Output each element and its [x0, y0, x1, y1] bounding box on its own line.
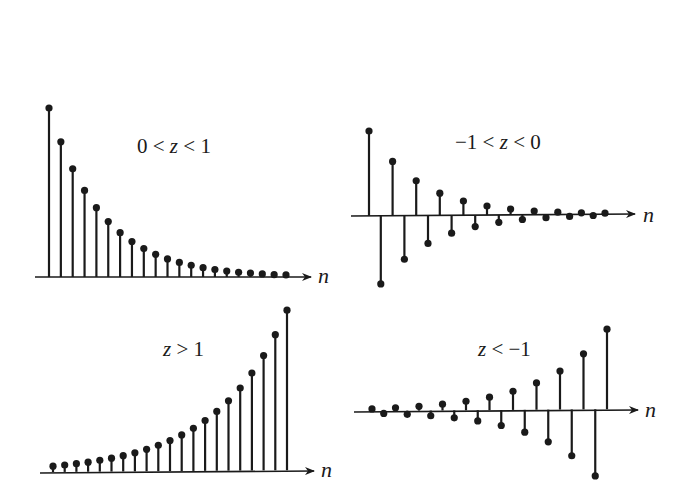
stem-dot-n5 [424, 240, 431, 247]
stem-dot-n16 [235, 269, 242, 276]
panel-title: z > 1 [162, 337, 204, 361]
stem-dot-n4 [96, 457, 103, 464]
stem-dot-n2 [392, 404, 399, 411]
stem-dot-n17 [248, 369, 255, 376]
stem-dot-n16 [554, 209, 561, 216]
stem-dot-n5 [427, 412, 434, 419]
stem-dot-n1 [57, 138, 64, 145]
stem-dot-n16 [237, 384, 244, 391]
stem-dot-n0 [45, 104, 52, 111]
stem-dot-n15 [223, 267, 230, 274]
stem-dot-n7 [448, 230, 455, 237]
stem-dot-n8 [460, 197, 467, 204]
stem-dot-n18 [578, 209, 585, 216]
panel-title: z < −1 [477, 337, 531, 361]
stem-dot-n13 [199, 264, 206, 271]
stem-dot-n17 [247, 270, 254, 277]
stem-dot-n16 [556, 367, 563, 374]
stem-dot-n19 [592, 472, 599, 479]
stem-dot-n20 [282, 271, 289, 278]
stem-dot-n14 [531, 207, 538, 214]
stem-dot-n19 [271, 271, 278, 278]
stem-dot-n8 [140, 245, 147, 252]
stem-dot-n8 [143, 446, 150, 453]
stem-dot-n19 [590, 212, 597, 219]
panel-bottom-left: n z > 1 [40, 307, 332, 482]
stem-dot-n19 [272, 331, 279, 338]
stem-dot-n11 [176, 259, 183, 266]
stem-dot-n12 [509, 388, 516, 395]
stem-dot-n17 [568, 452, 575, 459]
panel-top-right: n −1 < z < 0 [351, 127, 654, 287]
stem-dot-n15 [545, 438, 552, 445]
stem-dot-n12 [188, 262, 195, 269]
stem-dot-n10 [164, 255, 171, 262]
panel-title: 0 < z < 1 [137, 134, 211, 158]
stem-dot-n3 [404, 411, 411, 418]
stem-dot-n12 [190, 425, 197, 432]
stem-dot-n6 [117, 229, 124, 236]
figure: n 0 < z < 1 n −1 < z < 0 n z > 1 n z < −… [0, 0, 693, 499]
stem-dot-n10 [486, 394, 493, 401]
stem-dot-n9 [474, 417, 481, 424]
stem-dot-n6 [120, 452, 127, 459]
stem-dot-n15 [225, 397, 232, 404]
panel-title: −1 < z < 0 [455, 130, 541, 154]
stem-dot-n11 [498, 422, 505, 429]
stem-dot-n18 [260, 352, 267, 359]
stem-dot-n18 [259, 270, 266, 277]
stem-dot-n13 [521, 429, 528, 436]
stem-dot-n2 [73, 460, 80, 467]
stem-dot-n7 [451, 414, 458, 421]
n-axis [40, 471, 314, 473]
stem-dot-n10 [483, 202, 490, 209]
stem-dot-n11 [495, 219, 502, 226]
stem-dot-n12 [507, 205, 514, 212]
stem-dot-n20 [601, 210, 608, 217]
stem-dot-n14 [211, 266, 218, 273]
stem-dot-n0 [49, 463, 56, 470]
stem-dot-n2 [69, 165, 76, 172]
stem-dot-n13 [519, 216, 526, 223]
stem-dot-n4 [93, 204, 100, 211]
stem-dot-n8 [462, 398, 469, 405]
stem-dot-n10 [166, 437, 173, 444]
panel-bottom-right: n z < −1 [354, 326, 656, 480]
stem-marks [45, 104, 289, 278]
stem-dot-n3 [85, 459, 92, 466]
stem-dot-n7 [131, 449, 138, 456]
axis-label-n: n [643, 202, 654, 227]
stem-dot-n14 [213, 408, 220, 415]
stem-dot-n6 [439, 401, 446, 408]
stem-dot-n1 [380, 410, 387, 417]
axis-label-n: n [645, 397, 656, 422]
stem-dot-n7 [128, 238, 135, 245]
stem-dot-n1 [377, 280, 384, 287]
stem-dot-n18 [580, 350, 587, 357]
stem-dot-n4 [413, 177, 420, 184]
stem-dot-n13 [202, 417, 209, 424]
stem-dot-n3 [81, 187, 88, 194]
axis-label-n: n [321, 457, 332, 482]
stem-dot-n3 [401, 256, 408, 263]
stem-dot-n2 [389, 158, 396, 165]
panel-top-left: n 0 < z < 1 [35, 104, 329, 288]
stem-dot-n14 [533, 379, 540, 386]
stem-dot-n0 [368, 405, 375, 412]
stem-dot-n9 [472, 223, 479, 230]
stem-dot-n17 [566, 213, 573, 220]
stem-marks [49, 307, 290, 472]
stem-dot-n5 [105, 218, 112, 225]
stem-dot-n20 [283, 307, 290, 314]
stem-dot-n5 [108, 455, 115, 462]
stem-dot-n15 [542, 214, 549, 221]
stem-dot-n20 [603, 326, 610, 333]
stem-dot-n0 [365, 127, 372, 134]
stem-dot-n9 [155, 442, 162, 449]
axis-label-n: n [318, 263, 329, 288]
stem-dot-n9 [152, 251, 159, 258]
stem-dot-n1 [61, 461, 68, 468]
stem-dot-n11 [178, 431, 185, 438]
stem-dot-n4 [415, 403, 422, 410]
stem-dot-n6 [436, 190, 443, 197]
